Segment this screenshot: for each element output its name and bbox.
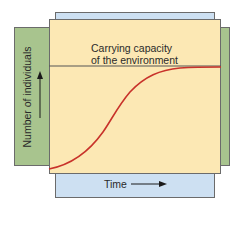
logistic-growth-curve <box>49 67 221 169</box>
carrying-capacity-label-line2: of the environment <box>91 54 178 66</box>
y-axis-label: Number of individuals <box>21 47 33 148</box>
x-axis-label: Time <box>104 178 127 190</box>
y-axis-arrow-icon <box>37 71 43 118</box>
carrying-capacity-label: Carrying capacity of the environment <box>91 42 178 66</box>
x-axis-arrow-icon <box>131 181 167 187</box>
carrying-capacity-label-line1: Carrying capacity <box>91 42 178 54</box>
